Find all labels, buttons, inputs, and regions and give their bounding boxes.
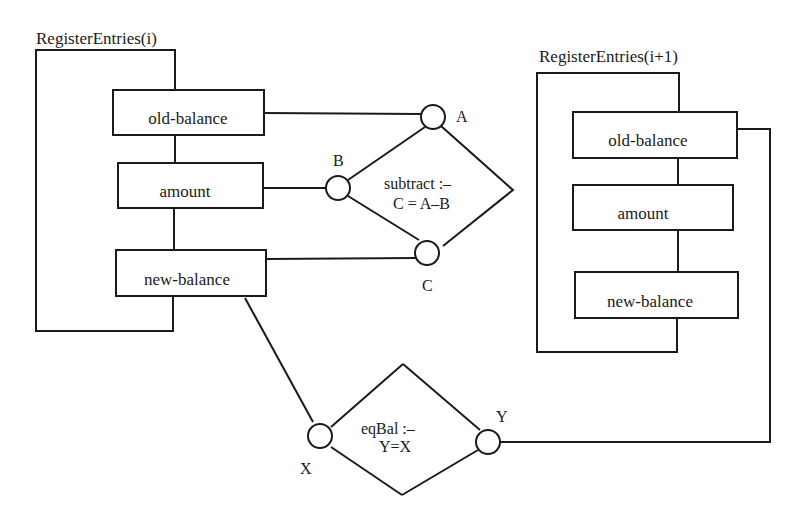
frame-register-entries-i-plus-1: RegisterEntries(i+1) old-balance amount … xyxy=(537,47,738,352)
frame-title-left: RegisterEntries(i) xyxy=(36,29,157,48)
port-label-x: X xyxy=(300,460,312,477)
port-x[interactable] xyxy=(308,424,332,448)
wire-old-balance-to-a xyxy=(264,113,422,114)
field-amount-left[interactable]: amount xyxy=(118,163,263,208)
field-label: old-balance xyxy=(148,109,227,128)
relation-subtract-name: subtract :– xyxy=(384,175,452,192)
field-amount-right[interactable]: amount xyxy=(573,185,733,230)
field-old-balance-left[interactable]: old-balance xyxy=(113,90,264,135)
diamond-subtract-upper-left xyxy=(348,127,425,180)
field-new-balance-right[interactable]: new-balance xyxy=(575,272,738,318)
frame-title-right: RegisterEntries(i+1) xyxy=(539,47,678,66)
field-label: amount xyxy=(618,204,669,223)
field-label: new-balance xyxy=(607,292,693,311)
wire-new-balance-to-x xyxy=(245,298,313,422)
relation-subtract-body: C = A–B xyxy=(393,195,450,212)
diagram-canvas: RegisterEntries(i) old-balance amount ne… xyxy=(0,0,804,512)
relation-eqbal-body: Y=X xyxy=(379,438,412,455)
relation-eqbal[interactable]: X Y eqBal :– Y=X xyxy=(300,364,508,495)
wire-new-balance-to-c xyxy=(266,258,416,259)
field-old-balance-right[interactable]: old-balance xyxy=(573,112,737,158)
port-a[interactable] xyxy=(421,105,445,129)
diamond-eqbal-upper-left xyxy=(331,364,403,427)
field-label: new-balance xyxy=(144,270,230,289)
frame-register-entries-i: RegisterEntries(i) old-balance amount ne… xyxy=(36,29,266,331)
field-label: amount xyxy=(160,182,211,201)
port-label-y: Y xyxy=(496,408,508,425)
port-label-b: B xyxy=(333,152,344,169)
diamond-subtract-right xyxy=(441,126,513,246)
relation-subtract[interactable]: A B C subtract :– C = A–B xyxy=(326,105,513,294)
port-c[interactable] xyxy=(415,241,439,265)
port-label-c: C xyxy=(422,277,433,294)
field-label: old-balance xyxy=(608,131,687,150)
port-label-a: A xyxy=(456,108,468,125)
field-new-balance-left[interactable]: new-balance xyxy=(116,250,266,296)
port-y[interactable] xyxy=(476,430,500,454)
diamond-eqbal-lower-right xyxy=(402,450,478,495)
port-b[interactable] xyxy=(326,176,350,200)
relation-eqbal-name: eqBal :– xyxy=(361,420,416,438)
